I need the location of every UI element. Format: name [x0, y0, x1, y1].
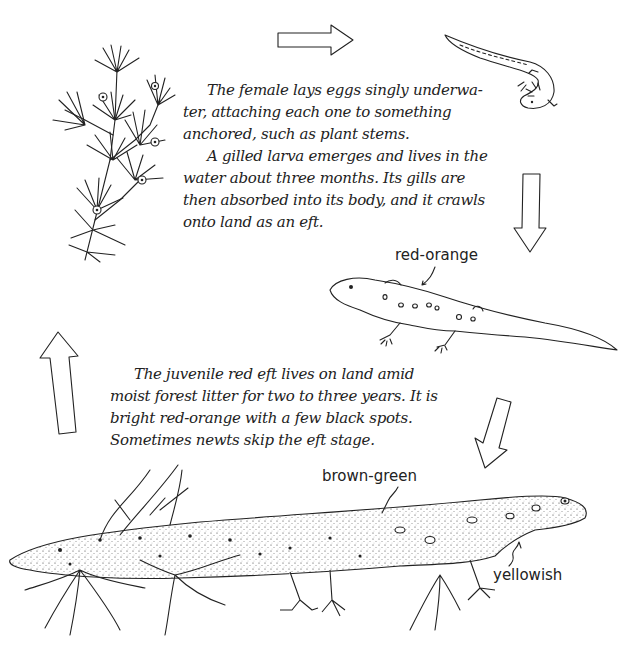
text-line: water about three months. Its gills are: [183, 167, 488, 189]
text-block-eft: The juvenile red eft lives on land amid …: [110, 363, 438, 451]
text-line: The juvenile red eft lives on land amid: [110, 363, 438, 385]
text-line: bright red-orange with a few black spots…: [110, 407, 438, 429]
text-line: The female lays eggs singly underwa-: [183, 79, 488, 101]
label-red-orange: red-orange: [395, 246, 478, 264]
text-line: Sometimes newts skip the eft stage.: [110, 429, 438, 451]
arrow-right-icon: [276, 23, 356, 58]
arrow-up-icon: [38, 330, 83, 435]
text-line: onto land as an eft.: [183, 211, 488, 233]
text-line: then absorbed into its body, and it craw…: [183, 189, 488, 211]
adult-newt-illustration: [0, 460, 600, 649]
text-line: anchored, such as plant stems.: [183, 123, 488, 145]
text-line: moist forest litter for two to three yea…: [110, 385, 438, 407]
text-line: ter, attaching each one to something: [183, 101, 488, 123]
text-block-egg-larva: The female lays eggs singly underwa- ter…: [183, 79, 488, 233]
text-line: A gilled larva emerges and lives in the: [183, 145, 488, 167]
red-eft-illustration: [325, 265, 625, 355]
arrow-down-icon: [512, 172, 548, 254]
aquatic-plant-with-eggs-illustration: [25, 40, 175, 265]
